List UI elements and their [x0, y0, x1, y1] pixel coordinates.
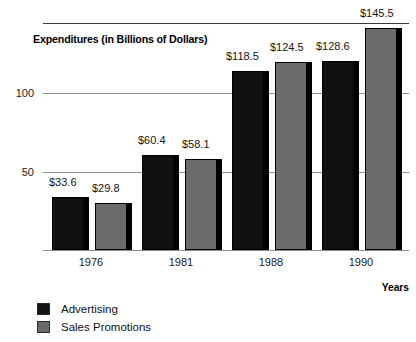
bar-shadow: [84, 202, 89, 250]
y-tick-label-50: 50: [2, 167, 34, 178]
bar-value-label: $29.8: [92, 183, 120, 194]
x-axis-baseline: [43, 250, 409, 251]
bar-shadow: [307, 67, 312, 250]
bar-shadow: [127, 208, 132, 250]
bar-shadow: [174, 160, 179, 250]
bar-shadow-cap: [217, 159, 222, 164]
legend-item-label: Advertising: [61, 302, 118, 316]
bar-value-label: $118.5: [226, 51, 259, 62]
bar-sales-promotions-1990: [365, 28, 397, 250]
chart-legend: Advertising Sales Promotions: [37, 302, 217, 338]
bar-face: [275, 62, 307, 250]
legend-swatch-icon: [37, 321, 50, 333]
x-tick-label-1988: 1988: [230, 257, 312, 268]
bar-value-label: $33.6: [49, 177, 77, 188]
y-tick-label-100: 100: [2, 88, 34, 99]
bar-value-label: $145.5: [360, 8, 394, 19]
bar-advertising-1990: [322, 61, 354, 250]
legend-item-sales-promotions: Sales Promotions: [37, 320, 217, 335]
bar-sales-promotions-1988: [275, 62, 307, 250]
bar-value-label: $124.5: [270, 42, 304, 53]
bar-advertising-1988: [232, 71, 264, 250]
bar-value-label: $60.4: [138, 135, 166, 146]
legend-item-advertising: Advertising: [37, 302, 217, 317]
bar-shadow-cap: [354, 61, 359, 66]
bar-shadow: [217, 164, 222, 250]
bar-face: [365, 28, 397, 250]
bar-shadow: [264, 76, 269, 250]
bar-shadow-cap: [397, 28, 402, 33]
legend-item-label: Sales Promotions: [61, 320, 151, 334]
bar-sales-promotions-1976: [95, 203, 127, 250]
bar-shadow: [397, 33, 402, 250]
bar-face: [185, 159, 217, 250]
bar-advertising-1976: [52, 197, 84, 250]
bar-sales-promotions-1981: [185, 159, 217, 250]
bar-advertising-1981: [142, 155, 174, 250]
bar-chart: Expenditures (in Billions of Dollars) 10…: [0, 0, 416, 342]
bar-shadow-cap: [307, 62, 312, 67]
bar-shadow-cap: [264, 71, 269, 76]
bar-shadow-cap: [174, 155, 179, 160]
bar-face: [142, 155, 174, 250]
bar-shadow: [354, 66, 359, 250]
bar-face: [52, 197, 84, 250]
x-tick-label-1990: 1990: [320, 257, 402, 268]
bar-value-label: $58.1: [182, 139, 210, 150]
bar-face: [95, 203, 127, 250]
bar-value-label: $128.6: [316, 41, 350, 52]
bar-face: [232, 71, 264, 250]
x-tick-label-1976: 1976: [50, 257, 132, 268]
chart-title: Expenditures (in Billions of Dollars): [33, 33, 207, 45]
x-tick-label-1981: 1981: [140, 257, 222, 268]
bar-shadow-cap: [127, 203, 132, 208]
bar-face: [322, 61, 354, 250]
legend-swatch-icon: [37, 303, 50, 315]
x-axis-title: Years: [351, 281, 409, 293]
chart-top-rule: [43, 23, 409, 24]
bar-shadow-cap: [84, 197, 89, 202]
